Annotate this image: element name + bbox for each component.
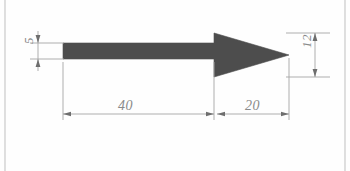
- technical-drawing-canvas: [0, 0, 350, 171]
- arrowhead-20-right: [281, 112, 289, 116]
- arrowhead-12-bottom: [313, 69, 318, 77]
- dimension-label-20: 20: [245, 98, 260, 114]
- arrow-part-shape: [63, 33, 289, 77]
- drawing-sheet: 5 12 40 20: [0, 0, 350, 171]
- dimension-label-5: 5: [21, 37, 37, 44]
- dimension-label-40: 40: [118, 98, 133, 114]
- arrowhead-20-left: [217, 112, 225, 116]
- arrowhead-40-left: [63, 112, 71, 116]
- dimension-label-12: 12: [299, 34, 315, 48]
- arrowhead-5-bottom: [36, 59, 41, 67]
- arrowhead-40-right: [206, 112, 214, 116]
